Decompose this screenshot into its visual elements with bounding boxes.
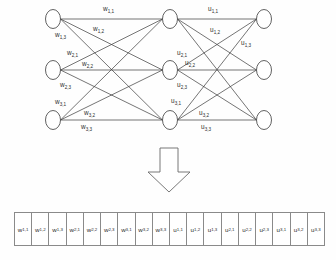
edge-label-w-3-3: w3,3: [81, 124, 92, 133]
edge-label-w-2-3: w2,3: [60, 82, 71, 91]
node-hidden-layer-2: [163, 61, 178, 80]
node-output-layer-2: [257, 61, 272, 80]
vector-cell-11: u1,2: [187, 213, 204, 245]
diagram-canvas: w1,1w1,2w1,3w2,1w2,2w2,3w3,1w3,2w3,3u1,1…: [0, 0, 336, 260]
edge-label-w-1-1: w1,1: [103, 6, 114, 15]
vector-cell-6: w2,3: [101, 213, 118, 245]
flattened-weight-vector: w1,1w1,2w1,3w2,1w2,2w2,3w3,1w3,2w3,3u1,1…: [14, 212, 325, 246]
vector-cell-2: w1,2: [32, 213, 49, 245]
edge-label-u-2-2: u2,2: [185, 60, 195, 69]
edge-label-w-1-2: w1,2: [93, 26, 104, 35]
network-graph: [0, 0, 336, 205]
node-input-layer-1: [46, 10, 61, 29]
nodes-group: [46, 10, 272, 130]
vector-cell-3: w1,3: [49, 213, 66, 245]
vector-cell-14: u2,2: [239, 213, 256, 245]
edge-label-u-1-3: u1,3: [241, 40, 251, 49]
node-hidden-layer-3: [163, 111, 178, 130]
vector-cell-17: u3,2: [291, 213, 308, 245]
edge-label-u-1-1: u1,1: [208, 6, 218, 15]
edge-label-w-2-1: w2,1: [67, 50, 78, 59]
vector-cell-12: u1,3: [204, 213, 221, 245]
node-input-layer-2: [46, 61, 61, 80]
edge-label-u-3-1: u3,1: [171, 98, 181, 107]
vector-cell-8: w3,2: [136, 213, 153, 245]
node-input-layer-3: [46, 111, 61, 130]
node-output-layer-3: [257, 111, 272, 130]
edge-label-w-1-3: w1,3: [55, 32, 66, 41]
vector-cell-13: u2,1: [222, 213, 239, 245]
edge-label-u-2-3: u2,3: [177, 82, 187, 91]
edge-label-u-1-2: u1,2: [210, 27, 220, 36]
vector-cell-1: w1,1: [15, 213, 32, 245]
node-hidden-layer-1: [163, 10, 178, 29]
edge-label-u-3-2: u3,2: [199, 110, 209, 119]
node-output-layer-1: [257, 10, 272, 29]
edge-label-w-2-2: w2,2: [82, 61, 93, 70]
edge-label-u-2-1: u2,1: [177, 50, 187, 59]
vector-cell-4: w2,1: [67, 213, 84, 245]
vector-cell-10: u1,1: [170, 213, 187, 245]
edge-label-u-3-3: u3,3: [201, 124, 211, 133]
edge-label-w-3-1: w3,1: [55, 99, 66, 108]
vector-cell-18: u3,3: [308, 213, 324, 245]
vector-cell-9: w3,3: [153, 213, 170, 245]
vector-cell-16: u3,1: [273, 213, 290, 245]
edge-label-w-3-2: w3,2: [84, 110, 95, 119]
vector-cell-5: w2,2: [84, 213, 101, 245]
vector-cell-15: u2,3: [256, 213, 273, 245]
vector-cell-7: w3,1: [118, 213, 135, 245]
